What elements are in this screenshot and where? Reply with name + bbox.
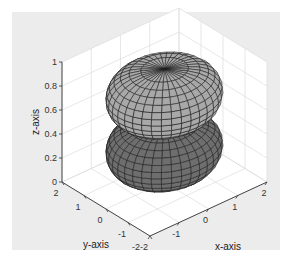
chart-plot: -2-1012-2-101200.20.40.60.81x-axisy-axis…: [0, 0, 292, 271]
y-tick-label: -2: [132, 242, 140, 252]
z-tick-label: 0.2: [44, 153, 57, 163]
x-axis-label: x-axis: [215, 241, 241, 252]
z-tick-label: 0: [52, 177, 57, 187]
z-tick-label: 0.8: [44, 81, 57, 91]
x-tick-label: 2: [261, 188, 266, 198]
z-tick-label: 0.4: [44, 129, 57, 139]
x-tick-label: 0: [203, 215, 208, 225]
y-tick-label: 0: [97, 215, 102, 225]
x-tick-label: 1: [232, 202, 237, 212]
x-tick-label: -1: [172, 229, 180, 239]
z-tick-label: 1: [52, 57, 57, 67]
y-axis-label: y-axis: [83, 239, 109, 250]
y-tick-label: 1: [75, 202, 80, 212]
z-axis-label: z-axis: [30, 109, 41, 135]
y-tick-label: -1: [118, 229, 126, 239]
y-tick-label: 2: [53, 188, 58, 198]
z-tick-label: 0.6: [44, 105, 57, 115]
x-tick-label: -2: [140, 242, 148, 252]
